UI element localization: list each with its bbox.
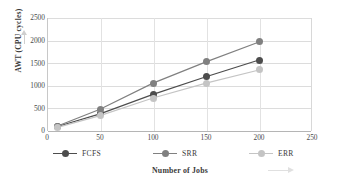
y-axis-tick-label: 1000 (9, 82, 45, 89)
x-axis-arrow-stem-icon (268, 170, 288, 171)
series-line-err (58, 70, 259, 127)
x-axis-tick-label: 250 (297, 134, 327, 141)
y-axis-tick-label: 2500 (9, 14, 45, 21)
legend-line-swatch (53, 153, 77, 155)
data-point-srr (256, 38, 263, 45)
y-axis-tick-label: 1500 (9, 60, 45, 67)
data-point-err (203, 80, 210, 87)
legend-label: SRR (182, 150, 197, 158)
data-point-srr (150, 80, 157, 87)
legend-marker-icon (162, 150, 169, 157)
x-axis-tick-label: 0 (32, 134, 62, 141)
x-axis-arrow-head-icon (288, 167, 294, 173)
legend-line-swatch (249, 153, 273, 155)
legend-item-srr[interactable]: SRR (153, 147, 197, 160)
x-axis-tick-label: 150 (191, 134, 221, 141)
x-axis-tick-label: 200 (244, 134, 274, 141)
series-lines (47, 18, 313, 132)
x-axis-tick-label: 100 (138, 134, 168, 141)
data-point-srr (203, 58, 210, 65)
data-point-fcfs (256, 57, 263, 64)
chart-legend: FCFSSRRERR (0, 147, 360, 160)
legend-item-err[interactable]: ERR (249, 147, 294, 160)
y-axis-tick-label: 500 (9, 105, 45, 112)
data-point-err (54, 124, 61, 131)
legend-label: FCFS (82, 150, 101, 158)
x-axis-tick-label: 50 (85, 134, 115, 141)
data-point-err (97, 112, 104, 119)
legend-marker-icon (258, 150, 265, 157)
data-point-err (150, 95, 157, 102)
legend-label: ERR (278, 150, 294, 158)
series-line-srr (58, 42, 259, 126)
chart-container: AWT (CPU cycles) 25002000150010005000 05… (0, 0, 360, 181)
series-line-fcfs (58, 60, 259, 126)
y-axis-tick-label: 2000 (9, 37, 45, 44)
legend-item-fcfs[interactable]: FCFS (53, 147, 101, 160)
legend-marker-icon (62, 150, 69, 157)
legend-line-swatch (153, 153, 177, 155)
x-axis-title: Number of Jobs (0, 166, 360, 175)
